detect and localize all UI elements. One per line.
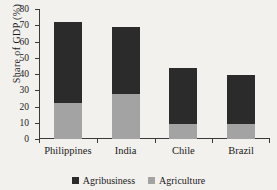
bar-group-brazil[interactable]	[227, 75, 255, 139]
y-tick-label-80: 80	[20, 4, 30, 14]
y-tick-label-60: 60	[20, 37, 30, 47]
chart-legend: AgribusinessAgriculture	[0, 175, 277, 186]
legend-item-agriculture[interactable]: Agriculture	[148, 175, 205, 186]
x-tick-3	[212, 139, 213, 143]
bar-segment-agribusiness-philippines[interactable]	[54, 22, 82, 103]
x-category-label-philippines: Philippines	[44, 145, 91, 156]
bar-segment-agribusiness-india[interactable]	[112, 27, 140, 94]
y-tick-label-10: 10	[20, 118, 30, 128]
bar-segment-agriculture-india[interactable]	[112, 94, 140, 140]
stacked-bar-chart: Share of GDP (%) 01020304050607080 Phili…	[0, 0, 277, 190]
x-tick-0	[39, 139, 40, 143]
bar-segment-agribusiness-brazil[interactable]	[227, 75, 255, 125]
y-tick-label-0: 0	[24, 134, 29, 144]
x-tick-1	[97, 139, 98, 143]
y-tick-label-30: 30	[20, 85, 30, 95]
bar-series-container	[39, 9, 270, 139]
bar-group-chile[interactable]	[169, 68, 197, 140]
y-tick-label-70: 70	[20, 20, 30, 30]
legend-label-agribusiness: Agribusiness	[83, 175, 135, 186]
bar-group-india[interactable]	[112, 27, 140, 139]
bar-segment-agriculture-chile[interactable]	[169, 124, 197, 139]
legend-swatch-agriculture-icon	[148, 177, 155, 184]
plot-area: 01020304050607080	[39, 9, 270, 139]
y-tick-label-50: 50	[20, 53, 30, 63]
y-tick-label-40: 40	[20, 69, 30, 79]
legend-item-agribusiness[interactable]: Agribusiness	[72, 175, 135, 186]
bar-group-philippines[interactable]	[54, 22, 82, 139]
bar-segment-agribusiness-chile[interactable]	[169, 68, 197, 124]
legend-swatch-agribusiness-icon	[72, 177, 79, 184]
y-tick-label-20: 20	[20, 102, 30, 112]
x-category-label-india: India	[115, 145, 137, 156]
bar-segment-agriculture-philippines[interactable]	[54, 103, 82, 139]
x-axis-category-labels: PhilippinesIndiaChileBrazil	[39, 145, 270, 161]
legend-label-agriculture: Agriculture	[159, 175, 205, 186]
x-category-label-chile: Chile	[172, 145, 195, 156]
x-category-label-brazil: Brazil	[228, 145, 254, 156]
x-tick-2	[155, 139, 156, 143]
x-tick-4	[269, 139, 270, 143]
bar-segment-agriculture-brazil[interactable]	[227, 124, 255, 139]
